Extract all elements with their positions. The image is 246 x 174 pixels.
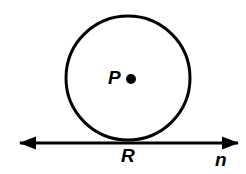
- geometry-figure: P R n: [0, 0, 246, 174]
- label-tangent-point-r: R: [121, 146, 135, 165]
- label-line-n: n: [215, 150, 227, 169]
- label-center-p: P: [108, 68, 121, 87]
- center-point-dot: [126, 74, 136, 84]
